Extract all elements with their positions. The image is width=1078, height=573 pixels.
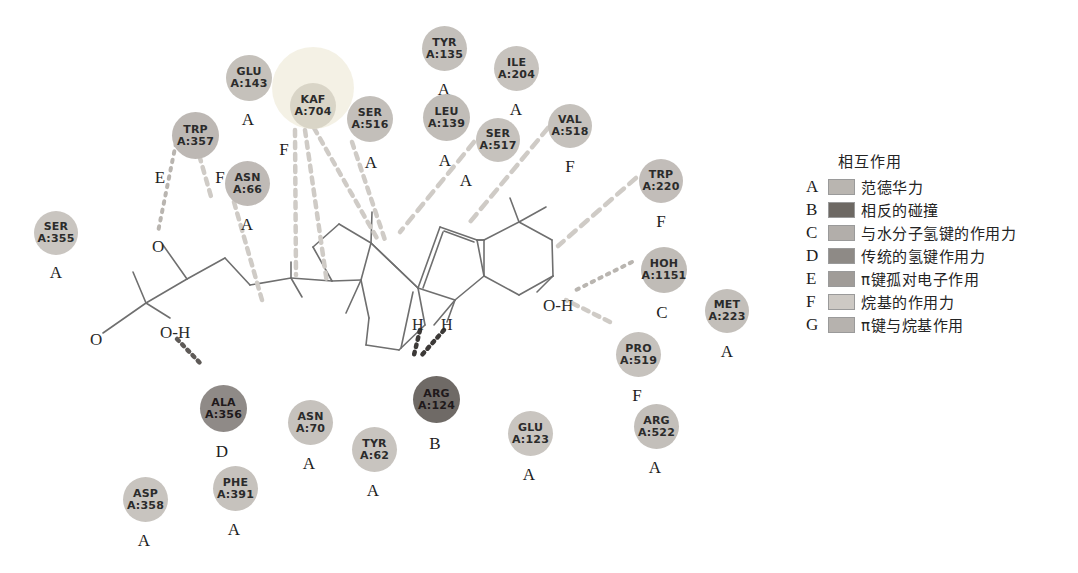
residue-name: GLU — [518, 422, 543, 434]
residue-node-trp-A357[interactable]: TRPA:357 — [172, 112, 219, 159]
residue-interaction-code: B — [423, 434, 447, 454]
residue-node-met-A223[interactable]: META:223 — [705, 289, 749, 333]
residue-name: ASN — [297, 411, 323, 423]
residue-node-hoh-A1151[interactable]: HOHA:1151 — [641, 247, 687, 293]
residue-interaction-code: A — [433, 151, 457, 171]
residue-node-ala-A356[interactable]: ALAA:356 — [200, 385, 247, 432]
residue-chain-id: A:223 — [708, 311, 745, 323]
legend-row-f: F烷基的作用力 — [806, 290, 1066, 313]
residue-interaction-code: A — [454, 171, 478, 191]
legend-color-swatch — [828, 179, 855, 195]
legend-key: C — [806, 223, 828, 243]
residue-chain-id: A:355 — [37, 233, 74, 245]
legend-color-swatch — [828, 225, 855, 241]
residue-interaction-code: A — [44, 263, 68, 283]
residue-name: ASP — [133, 488, 158, 500]
residue-interaction-code: F — [272, 140, 296, 160]
residue-interaction-code: A — [222, 520, 246, 540]
ligand-atom-label: H — [412, 316, 424, 334]
residue-name: ILE — [507, 57, 526, 69]
residue-node-glu-A143[interactable]: GLUA:143 — [226, 55, 272, 101]
residue-node-arg-A124[interactable]: ARGA:124 — [413, 376, 460, 423]
legend-row-c: C与水分子氢键的作用力 — [806, 221, 1066, 244]
residue-chain-id: A:70 — [296, 423, 325, 435]
residue-interaction-code: E — [148, 168, 172, 188]
residue-node-tyr-A135[interactable]: TYRA:135 — [422, 26, 467, 71]
legend-color-swatch — [828, 248, 855, 264]
legend-key: B — [806, 200, 828, 220]
residue-node-ser-A517[interactable]: SERA:517 — [476, 118, 520, 162]
residue-name: ARG — [423, 388, 450, 400]
residue-interaction-code: D — [210, 442, 234, 462]
residue-name: PRO — [625, 343, 651, 355]
residue-chain-id: A:391 — [217, 489, 254, 501]
residue-node-phe-A391[interactable]: PHEA:391 — [213, 466, 258, 511]
residue-name: TYR — [432, 37, 457, 49]
residue-chain-id: A:358 — [127, 500, 164, 512]
legend-key: A — [806, 177, 828, 197]
residue-chain-id: A:124 — [418, 400, 455, 412]
legend-key: F — [806, 292, 828, 312]
residue-node-ser-A516[interactable]: SERA:516 — [347, 96, 393, 142]
residue-chain-id: A:516 — [351, 119, 388, 131]
residue-node-kaf-A704[interactable]: KAFA:704 — [290, 83, 336, 129]
residue-name: TYR — [362, 438, 387, 450]
legend-row-b: B相反的碰撞 — [806, 198, 1066, 221]
ligand-atom-label: O — [90, 330, 102, 350]
legend-label: 与水分子氢键的作用力 — [861, 222, 1016, 243]
residue-interaction-code: C — [650, 303, 674, 323]
legend-title: 相互作用 — [838, 150, 1066, 171]
legend-label: 范德华力 — [861, 176, 923, 197]
legend-color-swatch — [828, 271, 855, 287]
residue-chain-id: A:518 — [551, 126, 588, 138]
residue-name: ALA — [211, 397, 236, 409]
residue-name: ASN — [234, 172, 260, 184]
residue-name: TRP — [183, 124, 208, 136]
legend-label: 相反的碰撞 — [861, 199, 939, 220]
residue-node-arg-A522[interactable]: ARGA:522 — [634, 404, 679, 449]
legend-label: 传统的氢键作用力 — [861, 245, 985, 266]
legend-color-swatch — [828, 317, 855, 333]
residue-interaction-code: F — [625, 386, 649, 406]
residue-name: ARG — [643, 415, 670, 427]
residue-chain-id: A:143 — [230, 78, 267, 90]
residue-chain-id: A:204 — [498, 69, 535, 81]
residue-node-ile-A204[interactable]: ILEA:204 — [494, 46, 539, 91]
residue-node-pro-A519[interactable]: PROA:519 — [616, 332, 661, 377]
residue-interaction-code: A — [297, 454, 321, 474]
residue-chain-id: A:123 — [512, 434, 549, 446]
legend-key: D — [806, 246, 828, 266]
residue-interaction-code: F — [649, 212, 673, 232]
residue-chain-id: A:357 — [177, 136, 214, 148]
residue-name: PHE — [223, 477, 248, 489]
residue-interaction-code: A — [235, 215, 259, 235]
residue-chain-id: A:135 — [426, 49, 463, 61]
residue-node-asn-A70[interactable]: ASNA:70 — [288, 400, 333, 445]
residue-chain-id: A:62 — [360, 450, 389, 462]
residue-interaction-code: A — [359, 153, 383, 173]
legend-label: π键孤对电子作用 — [861, 268, 979, 289]
residue-node-asn-A66[interactable]: ASNA:66 — [225, 161, 270, 206]
residue-node-asp-A358[interactable]: ASPA:358 — [123, 477, 168, 522]
residue-chain-id: A:517 — [479, 140, 516, 152]
ligand-atom-label: O-H — [160, 323, 190, 343]
ligand-atom-label: H — [441, 316, 453, 334]
residue-node-val-A518[interactable]: VALA:518 — [548, 104, 592, 148]
legend: 相互作用 A范德华力B相反的碰撞C与水分子氢键的作用力D传统的氢键作用力Eπ键孤… — [806, 150, 1066, 336]
residue-node-trp-A220[interactable]: TRPA:220 — [639, 159, 683, 203]
residue-chain-id: A:522 — [638, 427, 675, 439]
ligand-atom-label: O-H — [543, 296, 573, 316]
ligand-atom-label: O — [152, 237, 164, 257]
legend-row-g: Gπ键与烷基作用 — [806, 313, 1066, 336]
residue-chain-id: A:356 — [205, 409, 242, 421]
residue-interaction-code: A — [132, 531, 156, 551]
residue-node-tyr-A62[interactable]: TYRA:62 — [352, 427, 397, 472]
legend-row-d: D传统的氢键作用力 — [806, 244, 1066, 267]
legend-key: E — [806, 269, 828, 289]
legend-label: π键与烷基作用 — [861, 314, 964, 335]
residue-node-leu-A139[interactable]: LEUA:139 — [423, 94, 470, 141]
residue-node-glu-A123[interactable]: GLUA:123 — [508, 411, 553, 456]
residue-chain-id: A:66 — [233, 184, 262, 196]
residue-node-ser-A355[interactable]: SERA:355 — [34, 211, 78, 255]
residue-chain-id: A:139 — [428, 118, 465, 130]
